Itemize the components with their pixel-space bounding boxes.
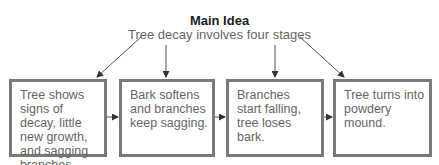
stage-1-text: Tree shows signs of decay, little new gr… bbox=[20, 88, 100, 165]
stage-2-text: Bark softens and branches keep sagging. bbox=[130, 88, 208, 130]
stage-3-text: Branches start falling, tree loses bark. bbox=[237, 88, 317, 144]
arrow-to-stage-1 bbox=[97, 37, 141, 77]
stage-box-4: Tree turns into powdery mound. bbox=[333, 79, 432, 157]
stage-box-3: Branches start falling, tree loses bark. bbox=[226, 79, 324, 157]
stage-box-2: Bark softens and branches keep sagging. bbox=[119, 79, 215, 157]
stage-box-1: Tree shows signs of decay, little new gr… bbox=[9, 79, 107, 157]
stage-4-text: Tree turns into powdery mound. bbox=[344, 88, 425, 130]
arrow-to-stage-4 bbox=[300, 37, 344, 77]
